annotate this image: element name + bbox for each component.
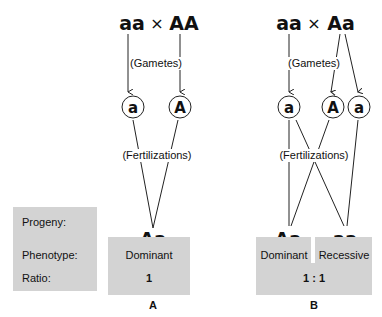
phenotype-value-recessive: Recessive [319, 249, 370, 261]
parent-genotype-2: Aa [327, 14, 355, 33]
phenotype-value-dominant: Dominant [260, 249, 307, 261]
ratio-label: Ratio: [22, 272, 51, 284]
row-labels-box: Progeny: Phenotype: Ratio: [13, 207, 97, 291]
fertilization-line [347, 120, 358, 226]
parent-genotype-2: AA [169, 14, 198, 33]
ratio-value: 1 [146, 272, 152, 284]
cross-symbol: × [150, 16, 163, 32]
ratio-value: 1 : 1 [303, 272, 325, 284]
panel-label-a: A [149, 299, 157, 311]
parent-genotype-1: aa [119, 14, 145, 33]
phenotype-label: Phenotype: [22, 249, 78, 261]
gamete-circle: a [348, 96, 371, 119]
parent-genotype-1: aa [276, 14, 302, 33]
fertilization-line [291, 120, 329, 226]
phenotype-value: Dominant [125, 249, 172, 261]
fertilization-line [153, 120, 178, 228]
gamete-circle: a [122, 96, 145, 119]
gamete-circle: A [322, 96, 345, 119]
gametes-note: (Gametes) [288, 57, 340, 70]
gamete-circle: a [278, 96, 301, 119]
gamete-arrow-a2 [345, 34, 358, 92]
gamete-circle: A [169, 96, 192, 119]
cross-symbol: × [307, 16, 320, 32]
result-box-b: Dominant Recessive 1 : 1 [256, 237, 372, 295]
result-box-a: Dominant 1 [108, 237, 190, 295]
gametes-note: (Gametes) [130, 57, 182, 70]
fertilization-line [133, 120, 153, 228]
box-notch [311, 237, 315, 263]
fertilizations-note: (Fertilizations) [279, 149, 348, 162]
fertilization-line [296, 120, 344, 226]
fertilizations-note: (Fertilizations) [122, 149, 191, 162]
panel-label-b: B [310, 299, 318, 311]
progeny-label: Progeny: [22, 216, 66, 228]
